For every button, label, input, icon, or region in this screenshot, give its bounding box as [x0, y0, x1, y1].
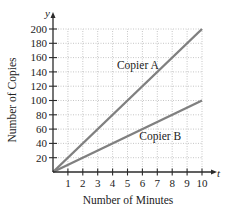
y-tick-label: 160: [31, 51, 48, 63]
x-tick-label: 4: [110, 177, 116, 189]
y-axis-variable: y: [44, 7, 50, 19]
series-lines: Copier ACopier B: [53, 29, 202, 172]
y-tick-label: 20: [36, 152, 48, 164]
x-axis-title: Number of Minutes: [83, 194, 174, 206]
series-label: Copier A: [117, 59, 160, 72]
x-tick-label: 7: [155, 177, 161, 189]
y-tick-label: 40: [36, 137, 48, 149]
y-tick-label: 80: [36, 109, 48, 121]
x-tick-label: 5: [125, 177, 131, 189]
y-tick-label: 120: [31, 80, 48, 92]
x-tick-label: 1: [65, 177, 71, 189]
y-tick-label: 100: [31, 94, 48, 106]
x-tick-label: 3: [95, 177, 101, 189]
y-tick-label: 200: [31, 23, 48, 35]
y-axis-arrow-icon: [51, 12, 56, 18]
line-chart: Copier ACopier B 12345678910204060801001…: [0, 0, 232, 212]
series-label: Copier B: [139, 130, 181, 143]
y-axis-title: Number of Copies: [6, 57, 19, 142]
y-tick-label: 140: [31, 66, 48, 78]
x-tick-label: 8: [169, 177, 175, 189]
y-tick-label: 180: [31, 37, 48, 49]
x-tick-label: 10: [197, 177, 209, 189]
y-tick-label: 60: [36, 123, 48, 135]
x-tick-label: 9: [184, 177, 190, 189]
x-tick-label: 6: [140, 177, 146, 189]
x-tick-label: 2: [80, 177, 86, 189]
x-axis-variable: t: [217, 167, 221, 179]
series-line-copier-a: [53, 29, 202, 172]
